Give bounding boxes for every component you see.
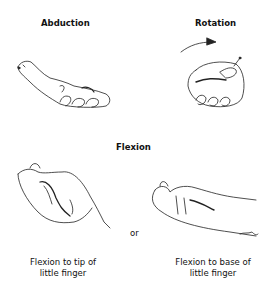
flexion-base-hand-illustration — [152, 182, 258, 237]
abduction-hand-illustration — [18, 61, 110, 107]
flexion-tip-hand-illustration — [18, 164, 110, 229]
rotation-hand-illustration — [188, 57, 244, 107]
illustrations — [0, 0, 271, 287]
